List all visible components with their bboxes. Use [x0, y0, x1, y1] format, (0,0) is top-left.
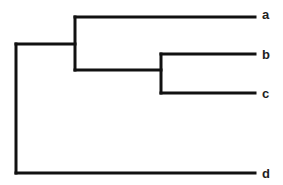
leaf-label-d: d: [262, 166, 270, 181]
dendrogram: a b c d: [0, 0, 283, 185]
root-node: [16, 44, 75, 173]
leaf-label-c: c: [262, 86, 269, 101]
leaf-label-b: b: [262, 47, 270, 62]
abc-node: [75, 17, 161, 70]
leaf-label-a: a: [262, 7, 270, 22]
